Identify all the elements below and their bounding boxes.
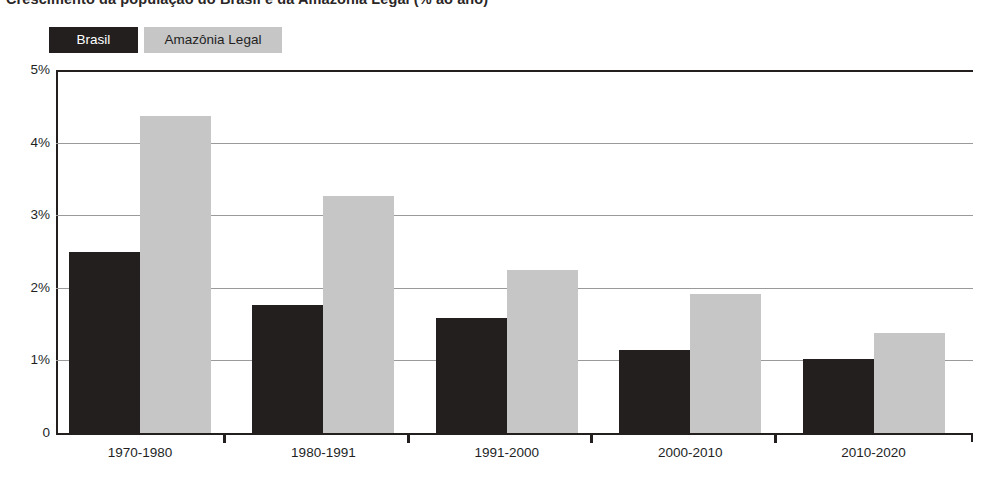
bar-brasil-2010-2020 [803,359,874,433]
legend-label-amazonia-legal: Amazônia Legal [165,27,262,53]
plot-area: 5%4%3%2%1%01970-19801980-19911991-200020… [56,70,973,433]
legend-item-amazonia-legal: Amazônia Legal [144,27,282,53]
bar-brasil-1970-1980 [69,252,140,434]
bar-brasil-2000-2010 [619,350,690,433]
x-axis-label-1980-1991: 1980-1991 [291,445,356,460]
x-axis-label-1970-1980: 1970-1980 [108,445,173,460]
y-axis-tick-label: 1% [10,353,50,367]
chart-legend: Brasil Amazônia Legal [49,27,282,53]
x-axis-end-tick [971,433,973,442]
x-axis-group-tick [223,433,226,443]
x-axis-label-2010-2020: 2010-2020 [841,445,906,460]
x-axis-group-tick [407,433,410,443]
y-axis-tick-label: 5% [10,63,50,77]
legend-label-brasil: Brasil [77,27,111,53]
x-axis-label-1991-2000: 1991-2000 [475,445,540,460]
bar-amazônia-legal-2010-2020 [874,333,945,433]
x-axis-group-tick [590,433,593,443]
y-axis-tick-label: 4% [10,136,50,150]
bar-brasil-1991-2000 [436,318,507,433]
bar-brasil-1980-1991 [252,305,323,433]
x-axis-line [56,433,973,435]
y-axis-line [56,70,58,433]
y-axis-tick-label: 2% [10,281,50,295]
bar-amazônia-legal-1991-2000 [507,270,578,433]
bar-amazônia-legal-2000-2010 [690,294,761,433]
bar-amazônia-legal-1980-1991 [323,196,394,433]
chart-page: Crescimento da população do Brasil e da … [0,0,992,477]
y-axis-tick-label: 3% [10,208,50,222]
y-axis-tick-label: 0 [10,426,50,440]
x-axis-group-tick [774,433,777,443]
page-title: Crescimento da população do Brasil e da … [6,0,488,7]
legend-item-brasil: Brasil [49,27,138,53]
x-axis-label-2000-2010: 2000-2010 [658,445,723,460]
bar-amazônia-legal-1970-1980 [140,116,211,433]
gridline-5 [56,70,973,72]
